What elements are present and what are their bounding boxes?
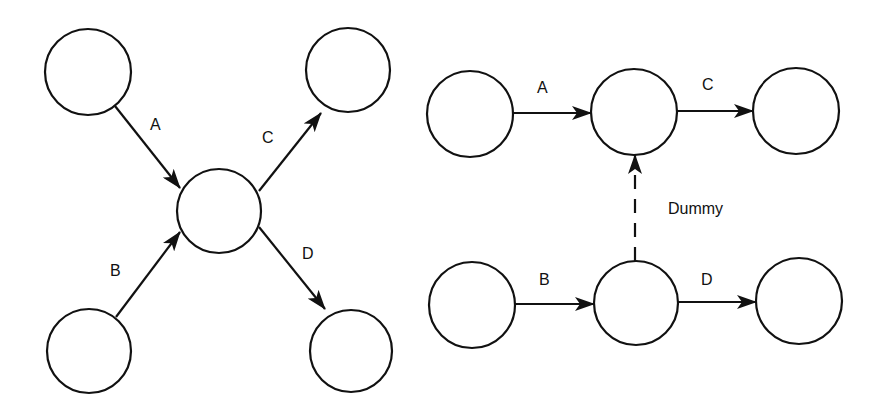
label-b: B: [110, 262, 121, 279]
network-diagram: A B C D A C B D Dummy: [0, 0, 877, 415]
label-a: A: [150, 116, 161, 133]
label-c: C: [262, 129, 274, 146]
label-dummy: Dummy: [668, 200, 723, 217]
label-d: D: [302, 245, 314, 262]
edge-d-arrow: [259, 227, 325, 309]
edge-b-arrow: [116, 232, 180, 317]
event-node-bottom-1: [429, 262, 515, 348]
edge-c-arrow: [259, 113, 321, 191]
label-d: D: [701, 271, 713, 288]
label-c: C: [702, 76, 714, 93]
event-node-bottom-right: [310, 310, 392, 392]
event-node-top-2: [591, 69, 677, 155]
edge-a-arrow: [115, 106, 180, 188]
event-node-top-right: [306, 28, 390, 112]
left-diagram: A B C D: [45, 28, 392, 393]
right-diagram: A C B D Dummy: [427, 68, 842, 348]
event-node-top-left: [45, 29, 131, 115]
event-node-top-3: [753, 68, 839, 154]
event-node-center: [177, 169, 261, 253]
event-node-top-1: [427, 71, 513, 157]
event-node-bottom-left: [47, 309, 131, 393]
event-node-bottom-2: [594, 261, 678, 345]
event-node-bottom-3: [756, 258, 842, 344]
label-a: A: [537, 79, 548, 96]
label-b: B: [539, 271, 550, 288]
